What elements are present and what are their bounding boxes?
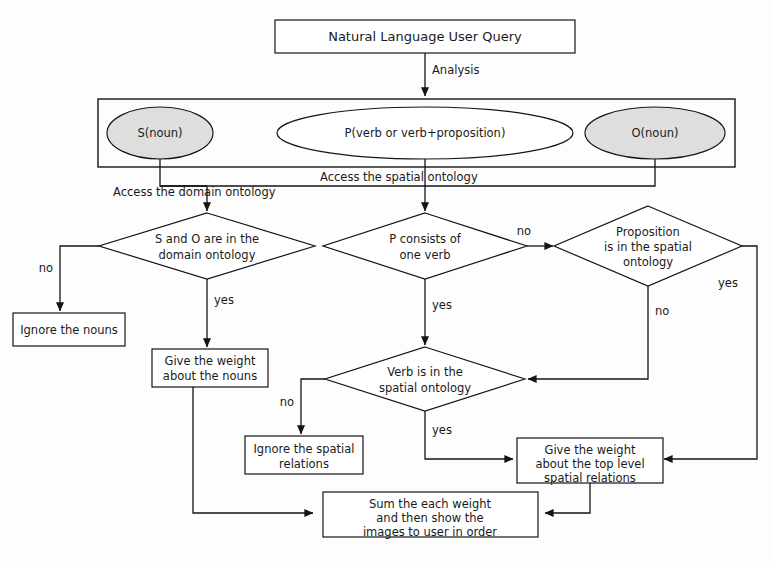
object-label: O(noun) [632,126,679,140]
sum-weights-line1: Sum the each weight [369,497,492,511]
edge-label-analysis: Analysis [432,63,479,77]
flowchart-canvas: Natural Language User Query Analysis S(n… [0,0,771,566]
proposition-diamond-line3: ontology [623,255,673,269]
ignore-spatial-line1: Ignore the spatial [253,442,354,456]
ignore-spatial-line2: relations [279,457,329,471]
verb-spatial-diamond-line1: Verb is in the [387,365,463,379]
node-object: O(noun) [585,107,725,159]
edge-proposition-no [528,286,648,379]
one-verb-diamond [323,213,527,279]
edge-label-access-domain-ontology: Access the domain ontology [113,185,276,199]
verb-spatial-diamond-line2: spatial ontology [379,381,471,395]
node-ignore-nouns: Ignore the nouns [13,313,125,346]
edge-label-one-verb-no: no [517,224,531,238]
edge-domain-no [60,246,99,311]
edge-proposition-yes [664,246,757,459]
node-subject: S(noun) [107,107,213,159]
sum-weights-line3: images to user in order [363,525,497,539]
domain-diamond [99,213,315,279]
weight-top-level-line3: spatial relations [544,471,636,485]
edge-label-access-spatial-ontology: Access the spatial ontology [320,170,478,184]
proposition-diamond-line2: is in the spatial [604,240,692,254]
one-verb-diamond-line2: one verb [400,248,451,262]
sum-weights-line2: and then show the [376,511,483,525]
node-decision-domain-ontology: S and O are in the domain ontology [99,213,315,279]
node-decision-verb-spatial: Verb is in the spatial ontology [325,347,525,411]
edge-verb-spatial-no [301,379,325,434]
subject-label: S(noun) [137,126,182,140]
edge-weight-top-level-to-sum [545,483,590,513]
edge-label-verb-spatial-no: no [280,395,294,409]
node-natural-language-user-query: Natural Language User Query [275,20,575,53]
flowchart-diagram: Natural Language User Query Analysis S(n… [0,0,771,566]
edge-label-proposition-no: no [655,304,669,318]
query-box-label: Natural Language User Query [328,29,522,44]
verb-spatial-diamond [325,347,525,411]
weight-top-level-line1: Give the weight [545,443,636,457]
node-weight-top-level: Give the weight about the top level spat… [517,438,663,485]
weight-nouns-line2: about the nouns [163,369,257,383]
weight-top-level-line2: about the top level [535,457,644,471]
ignore-nouns-label: Ignore the nouns [20,323,118,337]
edge-label-domain-no: no [39,261,53,275]
node-ignore-spatial: Ignore the spatial relations [245,436,363,474]
predicate-label: P(verb or verb+proposition) [345,126,506,140]
proposition-diamond-line1: Proposition [616,225,680,239]
domain-diamond-line2: domain ontology [159,248,256,262]
edge-label-proposition-yes: yes [718,276,738,290]
weight-nouns-line1: Give the weight [165,354,256,368]
edge-label-one-verb-yes: yes [432,298,452,312]
node-weight-nouns: Give the weight about the nouns [152,349,268,387]
edge-label-domain-yes: yes [214,293,234,307]
node-sum-weights: Sum the each weight and then show the im… [323,492,538,539]
node-decision-one-verb: P consists of one verb [323,213,527,279]
node-decision-proposition-spatial: Proposition is in the spatial ontology [554,206,742,286]
edge-label-verb-spatial-yes: yes [432,423,452,437]
domain-diamond-line1: S and O are in the [155,232,259,246]
node-predicate: P(verb or verb+proposition) [277,107,573,159]
one-verb-diamond-line1: P consists of [389,232,462,246]
